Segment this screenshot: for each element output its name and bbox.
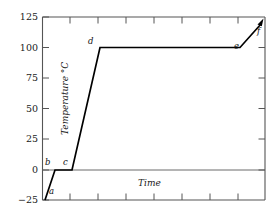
y-tick-label-50: 50	[6, 103, 38, 114]
point-label-d: d	[88, 36, 93, 46]
y-tick-label-75: 75	[6, 72, 38, 83]
point-label-e: e	[234, 41, 239, 51]
y-axis-ticks	[43, 17, 50, 200]
plot-frame	[43, 17, 266, 200]
x-axis-title: Time	[138, 178, 161, 188]
y-tick-label-minus25: −25	[2, 194, 38, 205]
y-tick-label-100: 100	[6, 42, 38, 53]
y-tick-label-25: 25	[6, 133, 38, 144]
point-label-c: c	[63, 157, 68, 167]
point-label-b: b	[45, 157, 50, 167]
x-axis-ticks-top	[70, 17, 238, 24]
y-axis-ticks-right	[259, 48, 266, 171]
x-axis-ticks	[70, 194, 238, 201]
heating-curve-path	[45, 19, 264, 201]
y-tick-label-0: 0	[6, 164, 38, 175]
chart-container: 125 100 75 50 25 0 −25 Temperature °C Ti…	[0, 0, 278, 215]
y-axis-title: Temperature °C	[60, 62, 70, 135]
y-tick-label-125: 125	[6, 11, 38, 22]
point-label-f: f	[257, 26, 260, 36]
point-label-a: a	[49, 186, 54, 196]
